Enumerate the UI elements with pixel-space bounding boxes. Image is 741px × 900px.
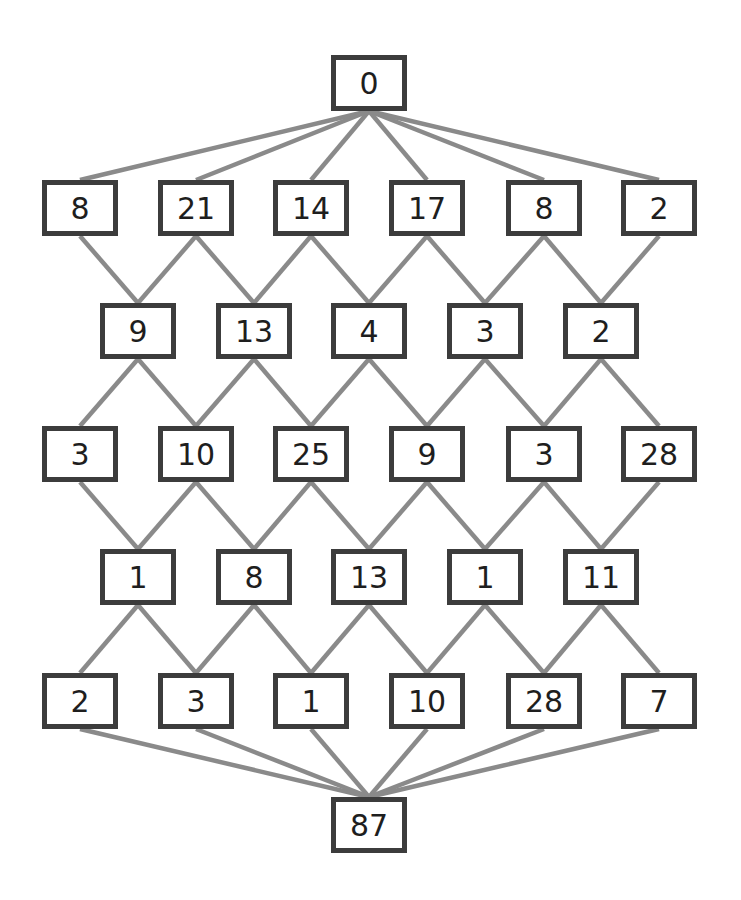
edge (254, 359, 311, 426)
graph-node: 14 (273, 180, 349, 236)
edge (601, 605, 659, 673)
graph-node: 2 (621, 180, 697, 236)
graph-node: 25 (273, 426, 349, 482)
graph-node: 13 (331, 549, 407, 605)
graph-node: 3 (447, 303, 523, 359)
edge (80, 236, 138, 303)
edge (427, 359, 485, 426)
graph-node: 3 (42, 426, 118, 482)
edge (544, 359, 601, 426)
layered-graph-diagram: 0821141782913432310259328181311123110287… (0, 0, 741, 900)
edge (254, 605, 311, 673)
edge (196, 359, 254, 426)
graph-node: 7 (621, 673, 697, 729)
edge (80, 359, 138, 426)
edge (485, 605, 544, 673)
graph-node: 87 (331, 797, 407, 853)
edge (138, 236, 196, 303)
edge (369, 482, 427, 549)
edge (427, 605, 485, 673)
graph-node: 13 (216, 303, 292, 359)
edge (80, 605, 138, 673)
edge (254, 236, 311, 303)
edge (311, 236, 369, 303)
edge (601, 482, 659, 549)
graph-node: 10 (389, 673, 465, 729)
edge (485, 236, 544, 303)
edge (311, 482, 369, 549)
edge (196, 605, 254, 673)
graph-node: 21 (158, 180, 234, 236)
edge (369, 605, 427, 673)
graph-node: 17 (389, 180, 465, 236)
graph-node: 28 (621, 426, 697, 482)
edge (369, 236, 427, 303)
graph-node: 3 (158, 673, 234, 729)
graph-node: 2 (42, 673, 118, 729)
edge (485, 359, 544, 426)
edge (138, 605, 196, 673)
edge (485, 482, 544, 549)
edge (544, 605, 601, 673)
graph-node: 8 (42, 180, 118, 236)
graph-node: 2 (563, 303, 639, 359)
edge (80, 482, 138, 549)
edge (254, 482, 311, 549)
graph-node: 8 (506, 180, 582, 236)
graph-node: 3 (506, 426, 582, 482)
graph-node: 1 (100, 549, 176, 605)
edge (311, 359, 369, 426)
graph-node: 28 (506, 673, 582, 729)
edge (427, 482, 485, 549)
graph-node: 8 (216, 549, 292, 605)
edge (601, 236, 659, 303)
edge (196, 236, 254, 303)
edge (601, 359, 659, 426)
edge (544, 482, 601, 549)
graph-node: 9 (389, 426, 465, 482)
edge (138, 482, 196, 549)
edge (196, 482, 254, 549)
graph-node: 9 (100, 303, 176, 359)
graph-node: 10 (158, 426, 234, 482)
edge (311, 605, 369, 673)
graph-node: 0 (331, 55, 407, 111)
graph-node: 1 (273, 673, 349, 729)
graph-node: 11 (563, 549, 639, 605)
edge (544, 236, 601, 303)
edge (427, 236, 485, 303)
edge (369, 359, 427, 426)
edge (138, 359, 196, 426)
graph-node: 4 (331, 303, 407, 359)
graph-node: 1 (447, 549, 523, 605)
